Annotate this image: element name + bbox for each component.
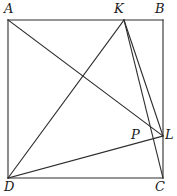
point-label-A: A xyxy=(4,2,13,15)
point-label-K: K xyxy=(114,2,124,15)
geometry-figure: A B C D K L P xyxy=(0,0,177,196)
segment-DK xyxy=(8,20,124,178)
segment-KC xyxy=(124,20,163,178)
figure-canvas xyxy=(0,0,177,196)
point-label-P: P xyxy=(131,128,140,141)
point-label-L: L xyxy=(165,128,174,141)
point-label-B: B xyxy=(155,2,165,15)
segment-DL xyxy=(8,136,163,178)
point-label-C: C xyxy=(155,180,165,193)
segment-layer xyxy=(8,20,163,178)
segment-AL xyxy=(8,20,163,136)
point-label-D: D xyxy=(4,180,14,193)
segment-KL xyxy=(124,20,163,136)
